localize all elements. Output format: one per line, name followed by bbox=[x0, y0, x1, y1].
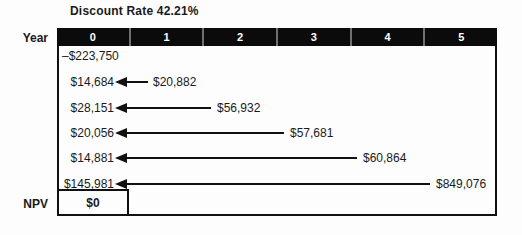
left-border-line bbox=[57, 46, 59, 191]
year-cell-5: 5 bbox=[423, 28, 497, 46]
year-cell-1: 1 bbox=[129, 28, 203, 46]
present-value: $28,151 bbox=[38, 100, 114, 116]
arrow-line bbox=[126, 132, 284, 134]
arrow-line bbox=[126, 107, 211, 109]
future-value: $56,932 bbox=[217, 100, 260, 116]
present-value: $20,056 bbox=[38, 125, 114, 141]
npv-label: NPV bbox=[10, 197, 48, 211]
year-cell-0: 0 bbox=[57, 28, 129, 46]
future-value: $60,864 bbox=[363, 150, 406, 166]
npv-value-box: $0 bbox=[57, 189, 129, 216]
year-cell-4: 4 bbox=[350, 28, 424, 46]
future-value: $849,076 bbox=[436, 176, 486, 192]
year-cell-2: 2 bbox=[202, 28, 276, 46]
year-axis-label: Year bbox=[10, 31, 48, 45]
arrow-line bbox=[126, 183, 430, 185]
right-border-line bbox=[495, 46, 497, 216]
year-cell-3: 3 bbox=[276, 28, 350, 46]
future-value: $57,681 bbox=[290, 125, 333, 141]
future-value: $20,882 bbox=[153, 74, 196, 90]
discount-rate-title: Discount Rate 42.21% bbox=[70, 4, 199, 18]
arrow-line bbox=[126, 157, 357, 159]
arrow-line bbox=[126, 81, 148, 83]
initial-investment-value: –$223,750 bbox=[62, 48, 119, 64]
bottom-border-line bbox=[129, 214, 497, 216]
npv-value: $0 bbox=[86, 196, 99, 210]
present-value: $14,881 bbox=[38, 150, 114, 166]
discounted-cash-flow-diagram: Discount Rate 42.21% Year 0 1 2 3 4 5 –$… bbox=[0, 0, 522, 235]
present-value: $14,684 bbox=[38, 74, 114, 90]
year-timeline-bar: 0 1 2 3 4 5 bbox=[57, 28, 497, 46]
